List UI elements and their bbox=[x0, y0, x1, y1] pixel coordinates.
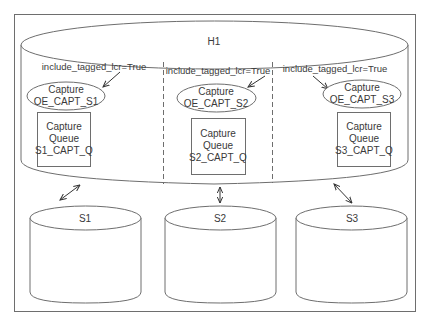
capture-line2-s3: OE_CAPT_S3 bbox=[330, 94, 395, 105]
rule-label-s1: include_tagged_lcr=True bbox=[42, 61, 146, 72]
capture-line2-s1: OE_CAPT_S1 bbox=[34, 96, 99, 107]
queue-line1-s1: Capture bbox=[46, 121, 82, 132]
db-body-s1 bbox=[30, 218, 141, 303]
capture-process-s1[interactable]: Capture OE_CAPT_S1 bbox=[27, 82, 105, 110]
rule-label-s3: include_tagged_lcr=True bbox=[283, 63, 387, 74]
database-s3[interactable]: S3 bbox=[296, 206, 407, 303]
db-label-s2: S2 bbox=[214, 213, 227, 224]
queue-line2-s1: Queue bbox=[49, 133, 79, 144]
capture-process-s2[interactable]: Capture OE_CAPT_S2 bbox=[177, 84, 256, 112]
replication-diagram: H1 include_tagged_lcr=True Capture OE_CA… bbox=[0, 0, 429, 328]
queue-line1-s2: Capture bbox=[200, 128, 236, 139]
capture-queue-s3[interactable]: Capture Queue S3_CAPT_Q bbox=[335, 113, 393, 167]
queue-line1-s3: Capture bbox=[346, 121, 382, 132]
queue-line3-s2: S2_CAPT_Q bbox=[189, 152, 247, 163]
capture-line1-s1: Capture bbox=[48, 84, 84, 95]
queue-line2-s3: Queue bbox=[349, 133, 379, 144]
queue-line2-s2: Queue bbox=[203, 140, 233, 151]
queue-line3-s3: S3_CAPT_Q bbox=[335, 145, 393, 156]
db-label-s3: S3 bbox=[346, 213, 359, 224]
hub-label: H1 bbox=[208, 36, 221, 47]
db-body-s2 bbox=[165, 218, 276, 303]
rule-label-s2: include_tagged_lcr=True bbox=[166, 65, 270, 76]
database-s1[interactable]: S1 bbox=[30, 206, 141, 303]
capture-queue-s2[interactable]: Capture Queue S2_CAPT_Q bbox=[189, 119, 247, 175]
queue-line3-s1: S1_CAPT_Q bbox=[35, 145, 93, 156]
connector-arrow-s1 bbox=[60, 185, 80, 200]
capture-line1-s2: Capture bbox=[198, 86, 234, 97]
capture-queue-s1[interactable]: Capture Queue S1_CAPT_Q bbox=[35, 113, 93, 167]
db-body-s3 bbox=[296, 218, 407, 303]
capture-process-s3[interactable]: Capture OE_CAPT_S3 bbox=[323, 80, 401, 108]
capture-line1-s3: Capture bbox=[344, 82, 380, 93]
db-label-s1: S1 bbox=[79, 213, 92, 224]
capture-line2-s2: OE_CAPT_S2 bbox=[184, 98, 249, 109]
database-s2[interactable]: S2 bbox=[165, 206, 276, 303]
connector-arrow-s3 bbox=[334, 184, 352, 203]
